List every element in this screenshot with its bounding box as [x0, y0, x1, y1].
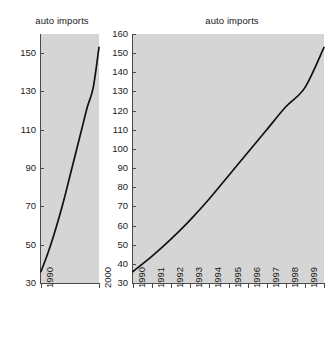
y-tick-mark [40, 130, 44, 131]
x-tick-label: 1995 [233, 267, 243, 288]
y-tick-mark [132, 187, 136, 188]
y-tick-mark [40, 245, 44, 246]
x-tick-mark [171, 283, 172, 288]
data-line [41, 47, 99, 271]
y-tick-label: 110 [6, 125, 36, 135]
chart-panel-left: auto imports 30507090110130150 19902000 [0, 0, 112, 338]
y-tick-label: 40 [98, 259, 128, 269]
y-tick-label: 110 [98, 125, 128, 135]
x-tick-mark [152, 283, 153, 288]
x-tick-mark [305, 283, 306, 288]
y-tick-label: 130 [98, 86, 128, 96]
x-tick-label: 1996 [252, 267, 262, 288]
x-tick-mark [248, 283, 249, 288]
y-tick-label: 60 [98, 221, 128, 231]
y-tick-mark [132, 34, 136, 35]
y-tick-mark [132, 206, 136, 207]
y-tick-label: 90 [98, 163, 128, 173]
x-tick-mark [209, 283, 210, 288]
y-tick-mark [132, 111, 136, 112]
y-tick-label: 50 [98, 240, 128, 250]
y-tick-mark [132, 72, 136, 73]
data-line [133, 47, 324, 271]
x-tick-label: 1993 [194, 267, 204, 288]
x-tick-mark [267, 283, 268, 288]
x-tick-label: 1991 [156, 267, 166, 288]
x-tick-label: 1990 [45, 267, 55, 288]
y-tick-mark [132, 91, 136, 92]
x-tick-label: 1997 [271, 267, 281, 288]
x-tick-mark [324, 283, 325, 288]
x-tick-label: 1994 [213, 267, 223, 288]
y-tick-mark [40, 53, 44, 54]
x-tick-label: 1999 [309, 267, 319, 288]
y-tick-label: 100 [98, 144, 128, 154]
y-tick-mark [132, 168, 136, 169]
y-tick-mark [132, 53, 136, 54]
y-tick-label: 130 [6, 86, 36, 96]
x-tick-mark [286, 283, 287, 288]
y-tick-label: 30 [6, 278, 36, 288]
y-tick-label: 30 [98, 278, 128, 288]
y-tick-label: 70 [6, 201, 36, 211]
y-tick-mark [132, 245, 136, 246]
y-tick-label: 50 [6, 240, 36, 250]
y-tick-label: 160 [98, 29, 128, 39]
y-tick-mark [132, 130, 136, 131]
y-tick-mark [132, 149, 136, 150]
y-tick-label: 80 [98, 182, 128, 192]
x-tick-label: 1992 [175, 267, 185, 288]
y-tick-label: 90 [6, 163, 36, 173]
y-tick-label: 140 [98, 67, 128, 77]
figure-canvas: auto imports 30507090110130150 19902000 … [0, 0, 328, 338]
y-tick-mark [40, 168, 44, 169]
x-tick-mark [41, 283, 42, 288]
x-tick-label: 1998 [290, 267, 300, 288]
y-tick-mark [40, 91, 44, 92]
x-tick-label: 1990 [137, 267, 147, 288]
x-tick-mark [133, 283, 134, 288]
chart-panel-right: auto imports 304050607080901001101201301… [112, 0, 328, 338]
y-tick-mark [132, 226, 136, 227]
y-tick-mark [40, 206, 44, 207]
y-tick-label: 150 [6, 48, 36, 58]
y-tick-label: 70 [98, 201, 128, 211]
x-tick-mark [229, 283, 230, 288]
y-tick-mark [132, 264, 136, 265]
y-tick-label: 120 [98, 106, 128, 116]
x-tick-mark [190, 283, 191, 288]
y-tick-label: 150 [98, 48, 128, 58]
